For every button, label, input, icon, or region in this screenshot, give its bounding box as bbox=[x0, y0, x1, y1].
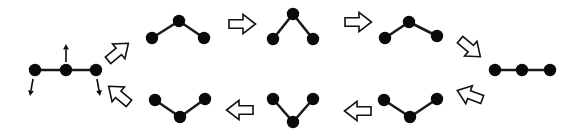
motion-arrow-up-center-head bbox=[63, 44, 69, 50]
node-right bbox=[90, 64, 102, 76]
node-right bbox=[307, 93, 319, 105]
state-flat-right bbox=[489, 64, 556, 76]
node-center bbox=[287, 116, 299, 128]
transition-arrow-left-bottom-2 bbox=[227, 100, 254, 119]
node-left bbox=[489, 64, 501, 76]
node-center bbox=[174, 111, 186, 123]
node-right bbox=[199, 93, 211, 105]
states-layer bbox=[28, 8, 556, 128]
node-right bbox=[431, 93, 443, 105]
oscillation-cycle-diagram bbox=[0, 0, 582, 135]
node-center bbox=[516, 64, 528, 76]
state-shallow-peak-top-right bbox=[379, 16, 443, 44]
transition-arrow-down-left bbox=[454, 81, 485, 108]
node-right bbox=[431, 30, 443, 42]
transition-arrow-left-bottom-1 bbox=[345, 101, 372, 120]
node-left bbox=[267, 93, 279, 105]
transition-arrow-right-top-1 bbox=[229, 14, 256, 33]
motion-arrow-down-left-shaft bbox=[31, 79, 33, 91]
node-right bbox=[198, 32, 210, 44]
state-steep-valley-bottom-middle bbox=[267, 93, 319, 128]
node-left bbox=[379, 32, 391, 44]
state-steep-peak-top-middle bbox=[267, 8, 319, 45]
node-center bbox=[403, 16, 415, 28]
diagram-canvas bbox=[0, 0, 582, 135]
state-shallow-peak-top-left bbox=[146, 15, 210, 44]
state-shallow-valley-bottom-left bbox=[149, 93, 211, 123]
node-right bbox=[544, 64, 556, 76]
node-center bbox=[173, 15, 185, 27]
transition-arrow-right-top-2 bbox=[345, 12, 372, 31]
node-left bbox=[267, 33, 279, 45]
node-left bbox=[378, 94, 390, 106]
state-flat-left bbox=[28, 44, 102, 96]
node-center bbox=[60, 64, 72, 76]
state-shallow-valley-bottom-right bbox=[378, 93, 443, 123]
node-center bbox=[287, 8, 299, 20]
node-left bbox=[146, 32, 158, 44]
motion-arrow-down-right-shaft bbox=[97, 79, 99, 91]
transition-arrow-up-left bbox=[102, 79, 135, 111]
transition-arrow-up-right bbox=[102, 36, 135, 68]
node-center bbox=[404, 111, 416, 123]
node-right bbox=[307, 33, 319, 45]
node-left bbox=[149, 94, 161, 106]
motion-arrow-down-right-head bbox=[96, 90, 102, 96]
motion-arrow-down-left-head bbox=[28, 90, 34, 96]
transition-arrow-down-right bbox=[454, 32, 487, 64]
node-left bbox=[29, 64, 41, 76]
